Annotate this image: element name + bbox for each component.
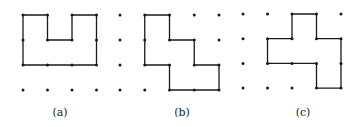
label-a: (a) [52, 106, 67, 119]
grid-dot [193, 14, 196, 17]
grid-dot [119, 89, 122, 92]
grid-dot [242, 37, 245, 40]
grid-dot [218, 39, 221, 42]
polygon-a [23, 15, 97, 65]
grid-dot [291, 87, 294, 90]
dot-grid-polygons-diagram: (a) (b) (c) [0, 0, 361, 127]
grid-dot [242, 62, 245, 65]
grid-dot [242, 87, 245, 90]
grid-dot [119, 39, 122, 42]
grid-dot [119, 14, 122, 17]
label-b: (b) [174, 106, 190, 119]
grid-dot [340, 13, 343, 16]
figure-c: (c) [242, 13, 343, 120]
grid-dot [46, 89, 49, 92]
polygon-b [145, 15, 219, 90]
grid-dot [218, 14, 221, 17]
grid-dot [266, 87, 269, 90]
dot-grid-a [22, 14, 99, 92]
label-c: (c) [296, 106, 311, 119]
figure-a: (a) [22, 14, 99, 120]
grid-dot [143, 89, 146, 92]
figure-b: (b) [119, 14, 221, 120]
grid-dot [95, 89, 98, 92]
grid-dot [266, 13, 269, 16]
grid-dot [22, 89, 25, 92]
grid-dot [242, 13, 245, 16]
polygon-c [268, 14, 342, 88]
grid-dot [119, 64, 122, 67]
grid-dot [71, 89, 74, 92]
